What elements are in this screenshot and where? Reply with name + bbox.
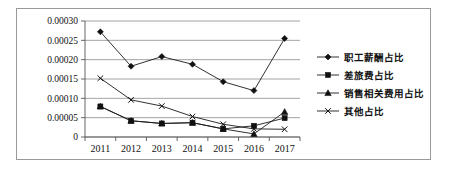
legend-item: 差旅费占比 xyxy=(317,70,394,81)
x-axis-tick-label: 2015 xyxy=(213,143,233,154)
chart-series xyxy=(97,103,288,136)
y-axis-tick-label: 0.00005 xyxy=(47,113,78,123)
legend-item: 职工薪酬占比 xyxy=(317,52,404,63)
y-axis-tick-label: 0.00015 xyxy=(47,74,78,84)
legend-item: 其他占比 xyxy=(317,106,384,117)
line-chart: 0.000300.000250.000200.000150.000100.000… xyxy=(17,9,430,159)
x-axis-tick-label: 2014 xyxy=(183,143,203,154)
chart-series xyxy=(97,29,287,94)
data-point-marker xyxy=(190,61,196,67)
data-point-marker xyxy=(190,114,196,120)
y-axis-tick-label: 0 xyxy=(73,132,78,142)
y-axis-tick-label: 0.00030 xyxy=(47,16,78,26)
data-point-marker xyxy=(326,73,331,78)
y-axis-tick-label: 0.00020 xyxy=(47,55,78,65)
y-axis-tick-label: 0.00010 xyxy=(47,94,78,104)
y-axis-tick-label: 0.00025 xyxy=(47,36,78,46)
legend-item: 销售相关费用占比 xyxy=(317,88,424,99)
x-axis-tick-label: 2013 xyxy=(152,143,172,154)
x-axis-tick-label: 2016 xyxy=(244,143,264,154)
data-point-marker xyxy=(282,116,287,121)
data-point-marker xyxy=(159,54,165,60)
data-point-marker xyxy=(251,88,257,94)
data-point-marker xyxy=(220,79,226,85)
chart-figure: 0.000300.000250.000200.000150.000100.000… xyxy=(16,8,431,160)
data-point-marker xyxy=(98,75,104,81)
legend-label: 职工薪酬占比 xyxy=(344,52,404,63)
legend-label: 差旅费占比 xyxy=(344,70,394,81)
legend-label: 其他占比 xyxy=(344,106,384,117)
x-axis-tick-label: 2012 xyxy=(121,143,141,154)
legend-label: 销售相关费用占比 xyxy=(344,88,424,99)
chart-plot-area: 0.000300.000250.000200.000150.000100.000… xyxy=(17,9,430,159)
x-axis-tick-label: 2017 xyxy=(275,143,295,154)
data-point-marker xyxy=(325,54,331,60)
x-axis-tick-label: 2011 xyxy=(91,143,111,154)
data-point-marker xyxy=(281,109,287,115)
